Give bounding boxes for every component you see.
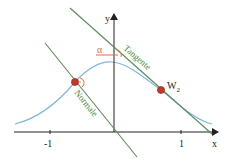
angle-label: α [97, 44, 103, 55]
y-axis-label: y [105, 13, 110, 24]
w2-label: W2 [167, 80, 180, 94]
right-angle-dot [79, 81, 81, 83]
x-tick-label-1: 1 [179, 138, 184, 149]
tangent-normal-diagram: y x -1 1 α W2 Tangente Normale [0, 0, 234, 167]
x-tick-label-neg1: -1 [44, 138, 52, 149]
normal-label: Normale [72, 88, 100, 119]
point-w2 [157, 86, 164, 93]
x-axis-label: x [212, 138, 217, 149]
point-left [71, 78, 78, 85]
